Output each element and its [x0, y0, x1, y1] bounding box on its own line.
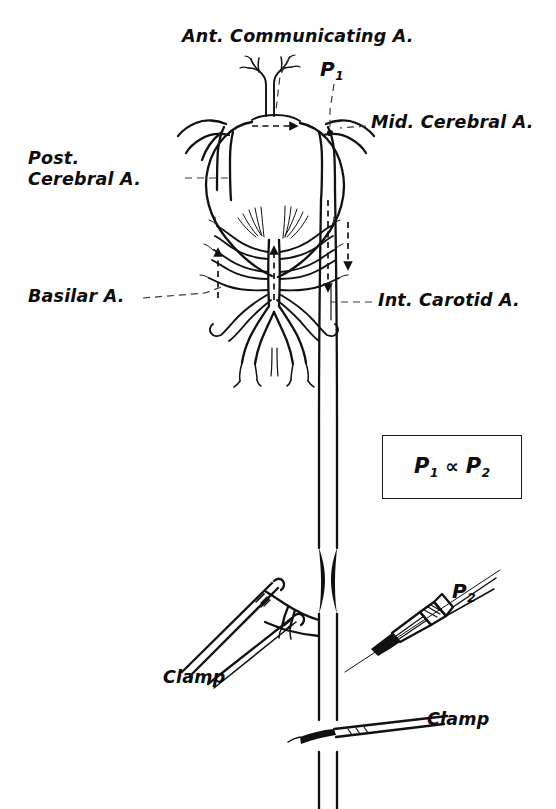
anatomical-figure: .ink { fill:none; stroke:#111111; stroke…: [0, 0, 556, 809]
formula-box: P1∝P2: [382, 435, 522, 499]
label-mid-cerebral-artery: Mid. Cerebral A.: [371, 112, 534, 133]
choroidal-tuft: [238, 206, 308, 238]
label-clamp-upper: Clamp: [163, 667, 225, 688]
anterior-cerebral-arteries: [240, 55, 300, 116]
pressure-needle: [345, 570, 500, 672]
vertebral-arteries: [234, 306, 314, 387]
label-clamp-lower: Clamp: [427, 709, 489, 730]
label-p2-subscript: 2: [467, 591, 476, 605]
label-post-cerebral-artery: Post. Cerebral A.: [28, 148, 193, 189]
formula-expression: P1∝P2: [414, 454, 490, 480]
formula-right-symbol: P: [466, 454, 481, 478]
formula-operator: ∝: [438, 455, 466, 477]
leader-ant-communicating: [276, 56, 290, 110]
label-p1-subscript: 1: [335, 69, 344, 83]
clamp-lower: [288, 716, 447, 744]
label-int-carotid-artery: Int. Carotid A.: [378, 290, 520, 311]
label-ant-communicating-artery: Ant. Communicating A.: [182, 26, 414, 47]
label-basilar-artery: Basilar A.: [28, 286, 125, 307]
label-post-cerebral-line1: Post.: [28, 148, 79, 168]
formula-left-symbol: P: [414, 454, 429, 478]
basilar-artery: [268, 240, 280, 306]
anterior-communicating-artery: [252, 115, 300, 126]
formula-right-subscript: 2: [481, 466, 490, 480]
right-carotid-junction: [319, 120, 374, 200]
leader-p1: [330, 84, 334, 131]
formula-left-subscript: 1: [429, 466, 438, 480]
label-p2: P2: [452, 580, 476, 605]
label-p1: P1: [320, 58, 344, 83]
label-p1-symbol: P: [320, 57, 335, 81]
carotid-stenosis: [319, 548, 337, 614]
willis-ring: [202, 122, 344, 277]
circle-of-willis: [178, 55, 374, 387]
label-post-cerebral-line2: Cerebral A.: [28, 169, 141, 189]
leader-basilar: [143, 286, 224, 298]
label-p2-symbol: P: [452, 579, 467, 603]
p1-measure-point: [327, 130, 333, 136]
